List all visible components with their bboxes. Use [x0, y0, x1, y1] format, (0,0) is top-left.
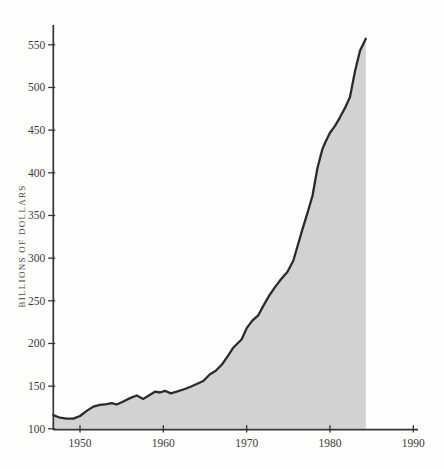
y-tick-label: 150: [28, 380, 46, 392]
area-chart: 1001502002503003504004505005501950196019…: [0, 0, 444, 469]
y-tick-label: 550: [28, 39, 46, 51]
y-axis-title: BILLIONS OF DOLLARS: [17, 184, 27, 307]
chart-page: 1001502002503003504004505005501950196019…: [0, 0, 444, 469]
y-tick-label: 200: [28, 337, 46, 349]
x-tick-label: 1980: [318, 437, 341, 449]
y-tick-label: 250: [28, 295, 46, 307]
x-tick-label: 1990: [402, 437, 425, 449]
x-tick-label: 1970: [235, 437, 258, 449]
x-tick-label: 1960: [152, 437, 175, 449]
y-tick-label: 400: [28, 167, 46, 179]
area-fill: [53, 39, 366, 429]
y-tick-label: 300: [28, 252, 46, 264]
y-tick-label: 500: [28, 81, 46, 93]
y-tick-label: 450: [28, 124, 46, 136]
y-tick-label: 100: [28, 423, 46, 435]
y-tick-label: 350: [28, 209, 46, 221]
x-tick-label: 1950: [69, 437, 92, 449]
